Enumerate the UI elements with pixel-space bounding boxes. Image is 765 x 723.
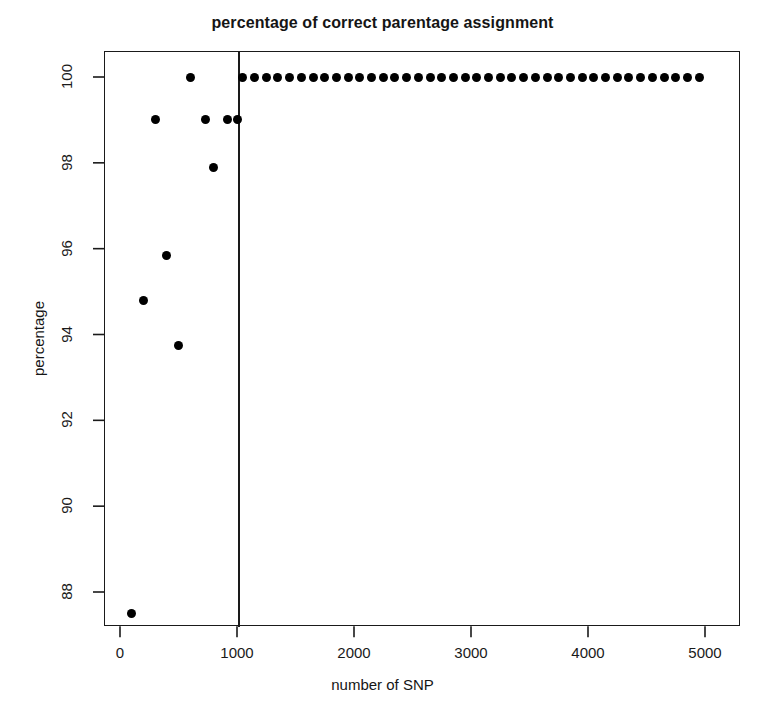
plot-area (104, 51, 740, 626)
data-point (174, 341, 183, 350)
x-tick-label: 0 (80, 644, 160, 661)
data-point (309, 73, 318, 82)
data-point (578, 73, 587, 82)
data-point (402, 73, 411, 82)
data-point (671, 73, 680, 82)
data-point (297, 73, 306, 82)
data-point (695, 73, 704, 82)
data-point (320, 73, 329, 82)
data-point (496, 73, 505, 82)
data-point (519, 73, 528, 82)
data-point (151, 115, 160, 124)
y-axis-label: percentage (30, 279, 47, 399)
y-tick-label: 100 (58, 55, 75, 99)
data-point (543, 73, 552, 82)
data-point (636, 73, 645, 82)
y-tick-label: 94 (58, 312, 75, 356)
data-point (390, 73, 399, 82)
reference-line-1000-snp (238, 52, 240, 627)
data-point (472, 73, 481, 82)
x-tick-label: 2000 (314, 644, 394, 661)
data-point (531, 73, 540, 82)
data-point (262, 73, 271, 82)
data-point (461, 73, 470, 82)
data-point (449, 73, 458, 82)
x-tick-label: 5000 (665, 644, 745, 661)
data-point (437, 73, 446, 82)
data-point (238, 73, 247, 82)
x-tick-label: 3000 (431, 644, 511, 661)
data-point (426, 73, 435, 82)
data-point (414, 73, 423, 82)
data-point (273, 73, 282, 82)
data-point (162, 251, 171, 260)
data-point (613, 73, 622, 82)
data-point (507, 73, 516, 82)
data-point (139, 296, 148, 305)
data-point (344, 73, 353, 82)
data-point (566, 73, 575, 82)
data-point (484, 73, 493, 82)
data-point (332, 73, 341, 82)
data-point (554, 73, 563, 82)
scatter-plot-figure: percentage of correct parentage assignme… (0, 0, 765, 723)
y-tick-label: 92 (58, 398, 75, 442)
x-tick-label: 1000 (197, 644, 277, 661)
data-point (624, 73, 633, 82)
data-point (285, 73, 294, 82)
x-axis-label: number of SNP (0, 676, 765, 693)
data-point (250, 73, 259, 82)
data-point (355, 73, 364, 82)
data-point (186, 73, 195, 82)
page-title: percentage of correct parentage assignme… (0, 14, 765, 32)
data-point (209, 163, 218, 172)
data-point (601, 73, 610, 82)
data-point (589, 73, 598, 82)
y-tick-label: 96 (58, 226, 75, 270)
data-point (683, 73, 692, 82)
x-tick-label: 4000 (548, 644, 628, 661)
data-point (233, 115, 242, 124)
data-point (379, 73, 388, 82)
y-tick-label: 90 (58, 484, 75, 528)
y-tick-label: 98 (58, 140, 75, 184)
data-point (648, 73, 657, 82)
data-point (367, 73, 376, 82)
y-tick-label: 88 (58, 570, 75, 614)
data-point (660, 73, 669, 82)
